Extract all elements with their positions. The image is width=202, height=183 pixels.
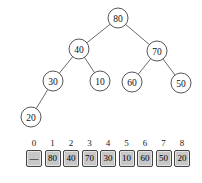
heap-diagram: 8040703010605020 0—180240370430510660750…: [0, 0, 202, 183]
array-index-label: 4: [106, 137, 111, 149]
array-index-label: 5: [124, 137, 129, 149]
array-cell: 70: [82, 150, 98, 167]
tree-node: 30: [43, 71, 63, 91]
tree-node-value: 40: [74, 45, 84, 55]
array-cell: 60: [137, 150, 153, 167]
tree-node-value: 80: [113, 14, 123, 24]
array-cell: 50: [156, 150, 172, 167]
tree-node: 60: [122, 72, 142, 92]
array-column: 180: [45, 137, 61, 167]
tree-node-value: 60: [127, 78, 137, 88]
array-index-label: 1: [50, 137, 55, 149]
array-index-label: 6: [143, 137, 148, 149]
array-column: 370: [82, 137, 98, 167]
array-column: 750: [156, 137, 172, 167]
array-column: 240: [63, 137, 79, 167]
array-index-label: 0: [32, 137, 37, 149]
array-column: 430: [100, 137, 116, 167]
array-cell: —: [26, 150, 42, 167]
array-cell: 80: [45, 150, 61, 167]
array-cell: 30: [100, 150, 116, 167]
tree-node-value: 70: [152, 47, 162, 57]
array-column: 0—: [26, 137, 42, 167]
array-representation: 0—180240370430510660750820: [26, 137, 190, 167]
tree-node: 50: [171, 73, 191, 93]
array-index-label: 7: [161, 137, 166, 149]
tree-node-value: 20: [26, 113, 36, 123]
tree-node: 80: [108, 8, 128, 28]
array-cell: 40: [63, 150, 79, 167]
array-index-label: 2: [69, 137, 74, 149]
tree-node: 20: [21, 107, 41, 127]
array-column: 660: [137, 137, 153, 167]
array-cell: 20: [174, 150, 190, 167]
tree-node: 40: [69, 39, 89, 59]
tree-node: 10: [90, 71, 110, 91]
array-index-label: 3: [87, 137, 92, 149]
tree-node: 70: [147, 41, 167, 61]
array-cell: 10: [119, 150, 135, 167]
tree-node-value: 10: [95, 77, 105, 87]
array-column: 510: [119, 137, 135, 167]
array-column: 820: [174, 137, 190, 167]
tree-node-value: 50: [176, 79, 186, 89]
array-index-label: 8: [180, 137, 185, 149]
tree-node-value: 30: [48, 77, 58, 87]
